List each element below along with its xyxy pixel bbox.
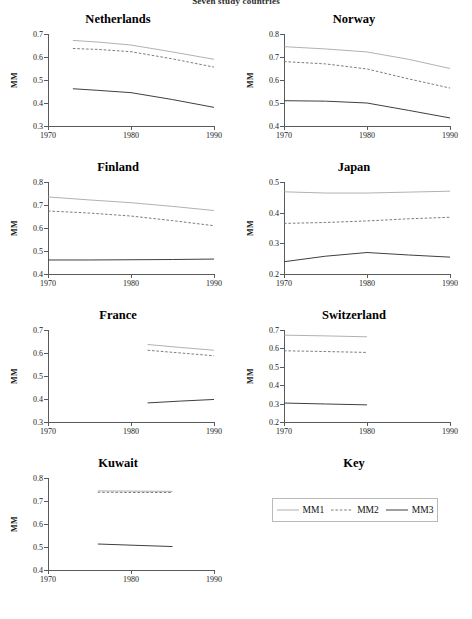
x-tick-mark bbox=[48, 274, 49, 278]
legend-entry-mm3[interactable]: MM3 bbox=[386, 505, 434, 515]
x-tick-label: 1990 bbox=[206, 427, 222, 436]
panel-title-france: France bbox=[0, 308, 236, 323]
line-mm3 bbox=[98, 544, 173, 547]
panel-title-netherlands: Netherlands bbox=[0, 12, 236, 27]
y-tick-label: 0.4 bbox=[33, 270, 43, 279]
y-axis-title: MM bbox=[246, 72, 255, 88]
y-tick-label: 0.7 bbox=[33, 30, 43, 39]
key-title: Key bbox=[236, 456, 472, 471]
x-tick-label: 1980 bbox=[359, 279, 375, 288]
y-axis-title: MM bbox=[10, 72, 19, 88]
plot-area-switzerland: MM0.20.30.40.50.60.7197019801990 bbox=[284, 330, 450, 422]
y-tick-label: 0.2 bbox=[269, 418, 279, 427]
line-mm1 bbox=[284, 191, 450, 193]
line-mm2 bbox=[148, 350, 214, 356]
line-mm1 bbox=[48, 197, 214, 211]
series-lines-japan bbox=[284, 182, 450, 274]
x-tick-mark bbox=[131, 570, 132, 574]
legend-swatch-mm1-icon bbox=[277, 506, 299, 514]
x-tick-mark bbox=[284, 422, 285, 426]
y-tick-label: 0.5 bbox=[33, 543, 43, 552]
x-tick-mark bbox=[131, 126, 132, 130]
y-axis-title: MM bbox=[10, 368, 19, 384]
y-tick-label: 0.7 bbox=[33, 201, 43, 210]
line-mm2 bbox=[48, 211, 214, 226]
y-tick-label: 0.8 bbox=[269, 30, 279, 39]
y-tick-label: 0.4 bbox=[269, 122, 279, 131]
series-lines-kuwait bbox=[48, 478, 214, 570]
x-tick-label: 1970 bbox=[276, 279, 292, 288]
y-tick-label: 0.4 bbox=[269, 381, 279, 390]
x-tick-label: 1980 bbox=[123, 279, 139, 288]
panel-title-kuwait: Kuwait bbox=[0, 456, 236, 471]
x-tick-mark bbox=[214, 274, 215, 278]
y-axis-title: MM bbox=[246, 368, 255, 384]
x-tick-label: 1980 bbox=[359, 427, 375, 436]
y-axis-title: MM bbox=[10, 516, 19, 532]
plot-area-netherlands: MM0.30.40.50.60.7197019801990 bbox=[48, 34, 214, 126]
x-tick-label: 1990 bbox=[442, 279, 458, 288]
x-tick-mark bbox=[48, 570, 49, 574]
x-tick-mark bbox=[48, 126, 49, 130]
x-tick-label: 1970 bbox=[40, 279, 56, 288]
x-tick-label: 1970 bbox=[276, 131, 292, 140]
line-mm3 bbox=[284, 253, 450, 262]
plot-area-france: MM0.30.40.50.60.7197019801990 bbox=[48, 330, 214, 422]
y-tick-label: 0.7 bbox=[269, 326, 279, 335]
plot-area-kuwait: MM0.40.50.60.70.8197019801990 bbox=[48, 478, 214, 570]
y-tick-label: 0.6 bbox=[269, 76, 279, 85]
x-tick-label: 1990 bbox=[206, 575, 222, 584]
panel-title-finland: Finland bbox=[0, 160, 236, 175]
y-tick-label: 0.8 bbox=[33, 474, 43, 483]
x-tick-mark bbox=[214, 422, 215, 426]
y-tick-label: 0.3 bbox=[269, 399, 279, 408]
panel-grid: NetherlandsMM0.30.40.50.60.7197019801990… bbox=[0, 10, 472, 619]
panel-key: KeyMM1MM2MM3 bbox=[236, 454, 472, 602]
plot-area-japan: MM0.20.30.40.5197019801990 bbox=[284, 182, 450, 274]
x-tick-label: 1990 bbox=[206, 131, 222, 140]
y-tick-label: 0.7 bbox=[269, 53, 279, 62]
y-tick-label: 0.7 bbox=[33, 497, 43, 506]
y-tick-label: 0.7 bbox=[33, 326, 43, 335]
line-mm3 bbox=[73, 89, 214, 108]
panel-netherlands: NetherlandsMM0.30.40.50.60.7197019801990 bbox=[0, 10, 236, 158]
x-tick-mark bbox=[214, 126, 215, 130]
plot-area-norway: MM0.40.50.60.70.8197019801990 bbox=[284, 34, 450, 126]
x-tick-mark bbox=[450, 126, 451, 130]
line-mm2 bbox=[73, 48, 214, 67]
y-tick-label: 0.5 bbox=[33, 76, 43, 85]
y-tick-label: 0.6 bbox=[33, 53, 43, 62]
line-mm3 bbox=[148, 399, 214, 402]
y-tick-label: 0.6 bbox=[269, 344, 279, 353]
x-tick-label: 1990 bbox=[206, 279, 222, 288]
x-tick-mark bbox=[450, 422, 451, 426]
line-mm2 bbox=[284, 217, 450, 223]
legend-label: MM2 bbox=[357, 505, 379, 515]
x-tick-mark bbox=[48, 422, 49, 426]
legend-swatch-mm2-icon bbox=[331, 506, 353, 514]
line-mm3 bbox=[48, 259, 214, 260]
x-tick-mark bbox=[367, 422, 368, 426]
series-lines-finland bbox=[48, 182, 214, 274]
line-mm2 bbox=[284, 62, 450, 88]
y-tick-label: 0.5 bbox=[269, 178, 279, 187]
panel-norway: NorwayMM0.40.50.60.70.8197019801990 bbox=[236, 10, 472, 158]
x-tick-mark bbox=[284, 126, 285, 130]
y-tick-label: 0.4 bbox=[269, 208, 279, 217]
y-tick-label: 0.8 bbox=[33, 178, 43, 187]
series-lines-norway bbox=[284, 34, 450, 126]
line-mm1 bbox=[148, 344, 214, 350]
y-tick-label: 0.5 bbox=[269, 99, 279, 108]
x-tick-mark bbox=[214, 570, 215, 574]
x-tick-label: 1980 bbox=[123, 575, 139, 584]
x-tick-label: 1970 bbox=[40, 131, 56, 140]
x-tick-label: 1980 bbox=[359, 131, 375, 140]
x-tick-label: 1990 bbox=[442, 131, 458, 140]
panel-kuwait: KuwaitMM0.40.50.60.70.8197019801990 bbox=[0, 454, 236, 602]
legend-box: MM1MM2MM3 bbox=[272, 498, 438, 522]
panel-switzerland: SwitzerlandMM0.20.30.40.50.60.7197019801… bbox=[236, 306, 472, 454]
line-mm1 bbox=[284, 47, 450, 69]
x-tick-label: 1990 bbox=[442, 427, 458, 436]
legend-entry-mm1[interactable]: MM1 bbox=[277, 505, 325, 515]
legend-entry-mm2[interactable]: MM2 bbox=[331, 505, 379, 515]
